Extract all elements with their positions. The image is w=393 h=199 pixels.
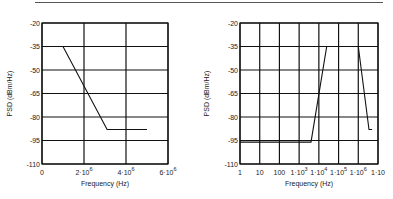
- x-axis-label: Frequency (Hz): [81, 180, 129, 188]
- x-tick-label: 2·106: [75, 166, 92, 176]
- x-tick-label: 10: [256, 169, 264, 176]
- y-tick-label: -110: [225, 161, 239, 168]
- y-tick-label: -95: [30, 137, 40, 144]
- y-tick-label: -35: [30, 43, 40, 50]
- y-tick-label: -20: [228, 20, 238, 27]
- y-tick-label: -20: [30, 20, 40, 27]
- x-tick-label: 1·10: [371, 169, 385, 176]
- y-axis-label: PSD (dBm/Hz): [203, 71, 211, 117]
- x-tick-label: 1·104: [310, 166, 327, 176]
- y-tick-label: -110: [27, 161, 41, 168]
- x-axis-label: Frequency (Hz): [285, 180, 333, 188]
- x-tick-label: 100: [274, 169, 286, 176]
- x-tick-label: 4·106: [117, 166, 134, 176]
- x-tick-label: 1·105: [330, 166, 347, 176]
- y-axis-label: PSD (dBm/Hz): [6, 71, 14, 117]
- chart-log-psd: -20-35-50-65-80-95-1101101001·1031·1041·…: [203, 20, 385, 189]
- y-tick-label: -80: [228, 114, 238, 121]
- x-tick-label: 6·106: [159, 166, 176, 176]
- y-tick-label: -95: [228, 137, 238, 144]
- y-tick-label: -80: [30, 114, 40, 121]
- y-tick-label: -35: [228, 43, 238, 50]
- y-tick-label: -50: [30, 67, 40, 74]
- chart-linear-psd: -20-35-50-65-80-95-11002·1064·1066·106Fr…: [6, 20, 177, 189]
- x-tick-label: 0: [40, 169, 44, 176]
- x-tick-label: 1·106: [350, 166, 367, 176]
- psd-charts: -20-35-50-65-80-95-11002·1064·1066·106Fr…: [0, 0, 393, 199]
- y-tick-label: -50: [228, 67, 238, 74]
- x-tick-label: 1·103: [291, 166, 308, 176]
- x-tick-label: 1: [238, 169, 242, 176]
- y-tick-label: -65: [30, 90, 40, 97]
- y-tick-label: -65: [228, 90, 238, 97]
